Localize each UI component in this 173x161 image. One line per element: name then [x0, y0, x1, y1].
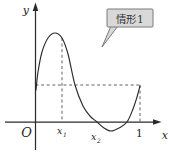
function-curve — [36, 33, 140, 131]
callout-label: 情形1 — [116, 13, 144, 25]
x2-tick-label: x 2 — [91, 131, 101, 144]
y-axis-arrow-icon — [33, 3, 39, 12]
svg-text:1: 1 — [63, 131, 67, 138]
callout-tail — [102, 26, 118, 47]
case-callout: 情形1 — [102, 9, 153, 47]
dashed-guides — [36, 38, 141, 122]
function-plot-figure: y x O x 1 x 2 1 情形1 — [0, 0, 173, 161]
x1-tick-label: x 1 — [57, 125, 67, 138]
origin-label: O — [21, 125, 32, 140]
y-axis-label: y — [22, 4, 30, 17]
function-plot-canvas: y x O x 1 x 2 1 情形1 — [0, 0, 173, 161]
x-axis-arrow-icon — [153, 119, 162, 125]
svg-text:2: 2 — [96, 137, 101, 144]
one-tick-label: 1 — [136, 127, 143, 139]
x-axis-label: x — [162, 129, 169, 142]
